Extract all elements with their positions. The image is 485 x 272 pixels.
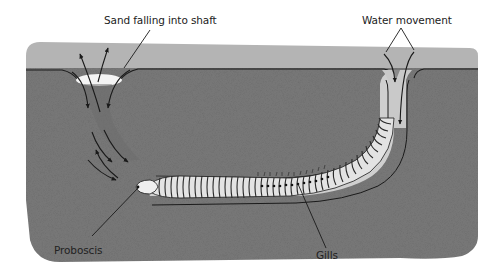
water-layer: [26, 42, 478, 70]
leader-water-right: [401, 28, 414, 50]
proboscis-tip: [137, 186, 140, 189]
label-water-movement: Water movement: [362, 14, 452, 26]
label-gills: Gills: [316, 249, 338, 261]
label-proboscis: Proboscis: [54, 244, 102, 256]
label-sand-falling: Sand falling into shaft: [104, 14, 217, 26]
lugworm-burrow-diagram: Sand falling into shaft Water movement P…: [0, 0, 485, 272]
diagram-canvas: [0, 0, 485, 272]
